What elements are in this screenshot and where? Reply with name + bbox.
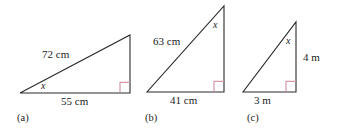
triangle-b-base-label: 41 cm [170,95,197,106]
triangle-a-outline [20,35,130,93]
triangle-b-hypotenuse-label: 63 cm [153,36,180,47]
triangle-b-part-label: (b) [145,113,157,124]
triangle-b-right-angle-marker [214,81,224,91]
triangle-a-angle-label: x [41,81,45,91]
triangle-a [20,35,130,93]
triangle-c-base-label: 3 m [254,95,271,106]
triangle-b-angle-label: x [213,20,217,30]
triangle-c-part-label: (c) [247,113,259,124]
triangle-c-angle-label: x [286,36,290,46]
triangle-a-right-angle-marker [120,82,130,92]
geometry-figure: 72 cm x 55 cm (a) 63 cm x 41 cm (b) x 4 … [0,0,338,130]
triangles-svg [0,0,338,130]
triangle-a-part-label: (a) [17,113,29,124]
triangle-c [243,22,296,92]
triangle-a-hypotenuse-label: 72 cm [42,49,69,60]
triangle-c-right-angle-marker [286,81,296,91]
triangle-c-vertical-label: 4 m [303,52,320,63]
triangle-a-base-label: 55 cm [61,96,88,107]
